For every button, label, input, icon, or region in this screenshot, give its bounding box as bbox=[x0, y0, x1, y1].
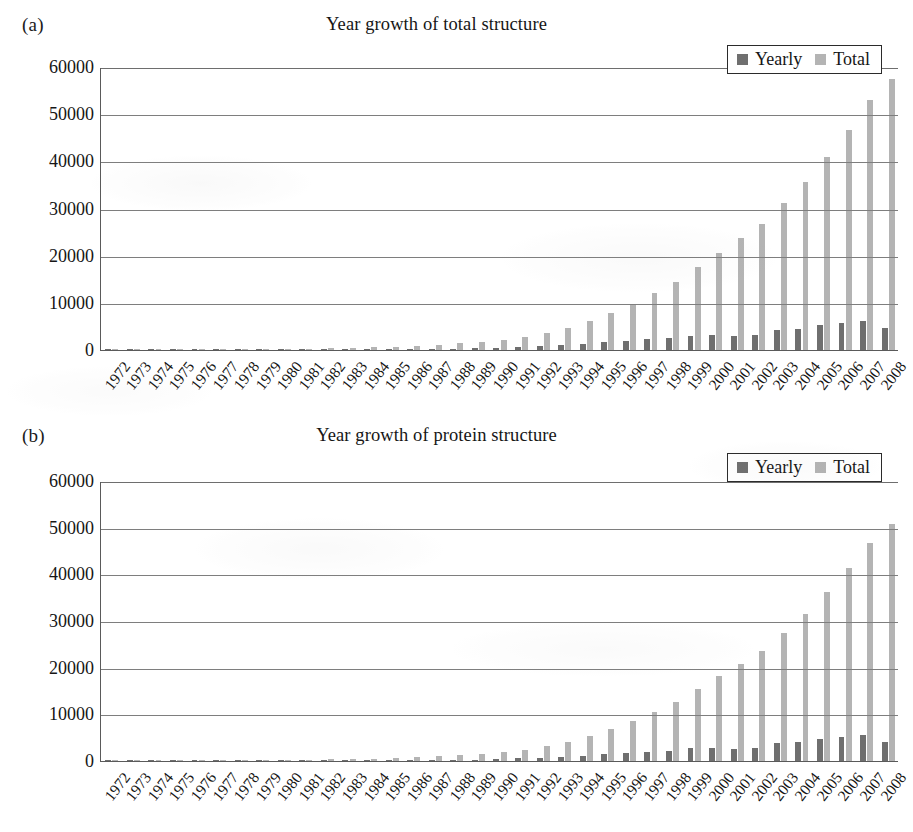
bar-yearly bbox=[364, 760, 370, 761]
bar-total bbox=[587, 321, 593, 350]
bar-total bbox=[328, 348, 334, 350]
bar-total bbox=[803, 182, 809, 350]
bar-yearly bbox=[537, 346, 543, 350]
bar-yearly bbox=[688, 336, 694, 350]
bar-yearly bbox=[601, 754, 607, 761]
bar-yearly bbox=[817, 325, 823, 350]
bar-total bbox=[759, 651, 765, 761]
bar-total bbox=[350, 348, 356, 350]
bar-total bbox=[608, 313, 614, 350]
gridline bbox=[101, 162, 898, 163]
bar-total bbox=[350, 759, 356, 761]
bar-yearly bbox=[256, 349, 262, 350]
bar-yearly bbox=[580, 344, 586, 350]
gridline bbox=[101, 257, 898, 258]
bar-total bbox=[544, 746, 550, 761]
bar-yearly bbox=[342, 760, 348, 761]
bar-yearly bbox=[299, 349, 305, 350]
x-axis-labels-a: 1972197319741975197619771978197919801981… bbox=[100, 356, 898, 426]
bar-yearly bbox=[774, 743, 780, 761]
bar-yearly bbox=[515, 347, 521, 350]
bar-total bbox=[479, 342, 485, 350]
bar-yearly bbox=[644, 752, 650, 761]
bar-total bbox=[738, 664, 744, 761]
bar-yearly bbox=[407, 349, 413, 350]
legend-label-yearly: Yearly bbox=[755, 458, 802, 476]
bar-total bbox=[522, 337, 528, 350]
legend-item-yearly[interactable]: Yearly bbox=[737, 50, 802, 68]
bar-total bbox=[285, 760, 291, 761]
bar-yearly bbox=[731, 749, 737, 761]
bar-total bbox=[867, 100, 873, 350]
gridline bbox=[101, 622, 898, 623]
legend-item-yearly[interactable]: Yearly bbox=[737, 458, 802, 476]
gridline bbox=[101, 482, 898, 483]
bar-total bbox=[673, 282, 679, 350]
bar-total bbox=[544, 333, 550, 350]
bar-yearly bbox=[623, 341, 629, 350]
bar-yearly bbox=[429, 760, 435, 761]
bar-total bbox=[695, 267, 701, 350]
bar-yearly bbox=[817, 739, 823, 761]
bar-yearly bbox=[148, 760, 154, 761]
bar-yearly bbox=[256, 760, 262, 761]
bar-total bbox=[220, 349, 226, 350]
bar-yearly bbox=[321, 760, 327, 761]
legend-swatch-total bbox=[815, 54, 826, 65]
bar-yearly bbox=[882, 328, 888, 350]
chart-panel-b: (b) Year growth of protein structure Yea… bbox=[0, 418, 913, 832]
bar-total bbox=[306, 760, 312, 761]
legend-swatch-yearly bbox=[737, 462, 748, 473]
bar-yearly bbox=[709, 748, 715, 761]
bar-yearly bbox=[580, 756, 586, 762]
bar-yearly bbox=[774, 330, 780, 350]
y-axis-labels-b: 0100002000030000400005000060000 bbox=[0, 482, 94, 762]
legend-item-total[interactable]: Total bbox=[815, 50, 870, 68]
legend-item-total[interactable]: Total bbox=[815, 458, 870, 476]
bar-total bbox=[652, 293, 658, 350]
bar-yearly bbox=[213, 349, 219, 350]
bar-yearly bbox=[192, 760, 198, 761]
x-axis-labels-b: 1972197319741975197619771978197919801981… bbox=[100, 767, 898, 832]
bar-total bbox=[328, 759, 334, 761]
bar-yearly bbox=[127, 760, 133, 761]
bar-total bbox=[285, 349, 291, 350]
bar-yearly bbox=[105, 349, 111, 350]
gridline bbox=[101, 210, 898, 211]
bar-total bbox=[263, 349, 269, 350]
bar-yearly bbox=[192, 349, 198, 350]
bar-yearly bbox=[666, 338, 672, 350]
bar-yearly bbox=[752, 748, 758, 761]
bar-total bbox=[781, 203, 787, 350]
y-tick-label: 40000 bbox=[49, 564, 94, 585]
bar-total bbox=[457, 343, 463, 350]
bar-yearly bbox=[472, 348, 478, 350]
bar-yearly bbox=[407, 760, 413, 761]
y-tick-label: 0 bbox=[85, 751, 94, 772]
bar-yearly bbox=[666, 751, 672, 761]
bar-total bbox=[134, 760, 140, 761]
bar-total bbox=[716, 253, 722, 350]
bar-total bbox=[371, 347, 377, 350]
bar-yearly bbox=[795, 742, 801, 761]
bar-total bbox=[242, 349, 248, 350]
bar-total bbox=[177, 349, 183, 350]
y-tick-label: 30000 bbox=[49, 611, 94, 632]
bar-total bbox=[177, 760, 183, 761]
bar-yearly bbox=[450, 760, 456, 761]
y-tick-label: 60000 bbox=[49, 57, 94, 78]
y-tick-label: 60000 bbox=[49, 471, 94, 492]
plot-canvas-b bbox=[100, 482, 898, 762]
bar-yearly bbox=[493, 348, 499, 350]
legend-label-yearly: Yearly bbox=[755, 50, 802, 68]
bar-yearly bbox=[860, 321, 866, 350]
bar-yearly bbox=[386, 349, 392, 350]
bar-yearly bbox=[235, 349, 241, 350]
gridline bbox=[101, 304, 898, 305]
bar-yearly bbox=[127, 349, 133, 350]
bar-yearly bbox=[429, 349, 435, 350]
y-tick-label: 20000 bbox=[49, 658, 94, 679]
y-tick-label: 50000 bbox=[49, 518, 94, 539]
bar-yearly bbox=[709, 335, 715, 350]
plot-canvas-a bbox=[100, 68, 898, 351]
